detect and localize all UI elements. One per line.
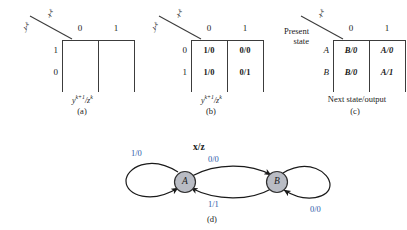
transition-label-a-to-b: 0/0 (208, 154, 219, 164)
state-label-a: A (176, 176, 194, 186)
panel-a-grid-line-mid (98, 40, 99, 92)
panel-b-cell-r0-c1: 0/0 (227, 45, 263, 55)
panel-b-cell-r0-c0: 1/0 (191, 45, 227, 55)
panel-b-footer-label: yk+1/zk (201, 94, 222, 105)
panel-c-cell-rA-c0: B/0 (333, 45, 369, 55)
panel-c-state-table: xk Present state 0 1 A B B/0 A/0 B/0 A/1… (265, 6, 405, 116)
panel-d-caption: (d) (192, 214, 232, 224)
transition-a-to-b-arc (192, 166, 271, 176)
state-label-b: B (268, 176, 286, 186)
panel-c-cell-rA-c1: A/0 (369, 45, 405, 55)
panel-b-col-header-1: 1 (227, 23, 263, 33)
panel-a-blank-kmap: xk yk 0 1 1 0 yk+1/zk (a) (14, 6, 134, 116)
panel-c-col-header-0: 0 (333, 23, 369, 33)
panel-b-col-header-0: 0 (191, 23, 227, 33)
panel-a-grid-line-right (134, 40, 135, 92)
panel-b-cell-r1-c0: 1/0 (191, 67, 227, 77)
panel-a-caption: (a) (62, 106, 102, 116)
panel-c-cell-rB-c0: B/0 (333, 67, 369, 77)
panel-d-state-diagram: x/z A B 1/0 0/0 1/1 0/0 (d) (0, 128, 407, 230)
panel-a-col-header-0: 0 (62, 23, 98, 33)
transition-label-b-self: 0/0 (310, 204, 321, 214)
panel-a-col-header-1: 1 (98, 23, 134, 33)
panel-b-cell-r1-c1: 0/1 (227, 67, 263, 77)
panel-c-row-header-A: A (307, 45, 329, 55)
panel-c-grid-line-right (405, 40, 406, 92)
panel-b-row-header-1: 1 (165, 67, 187, 77)
panel-c-present-state-line1: Present (265, 26, 309, 36)
panel-c-cell-rB-c1: A/1 (369, 67, 405, 77)
transition-b-to-a-arc (191, 188, 271, 198)
panel-c-col-header-1: 1 (369, 23, 405, 33)
panel-a-grid-line-left (62, 40, 63, 92)
panel-c-present-state-line2: state (265, 36, 309, 46)
panel-b-filled-kmap: xk yk 0 1 0 1 1/0 0/0 1/0 0/1 yk+1/zk (b… (143, 6, 263, 116)
panel-c-footer-label: Next state/output (309, 94, 405, 104)
panel-c-caption: (c) (335, 106, 375, 116)
panel-b-grid-line-right (263, 40, 264, 92)
panel-a-row-header-0: 0 (36, 67, 58, 77)
transition-label-a-self: 1/0 (131, 148, 142, 158)
panel-a-footer-label: yk+1/zk (72, 94, 93, 105)
transition-a-to-a-self-loop (126, 163, 178, 196)
panel-b-row-header-0: 0 (165, 45, 187, 55)
transition-label-b-to-a: 1/1 (208, 199, 219, 209)
transition-b-to-b-self-loop (283, 167, 330, 199)
panel-b-caption: (b) (191, 106, 231, 116)
panel-c-present-state-label: Present state (265, 26, 309, 46)
panel-a-row-header-1: 1 (36, 45, 58, 55)
panel-c-row-header-B: B (307, 67, 329, 77)
